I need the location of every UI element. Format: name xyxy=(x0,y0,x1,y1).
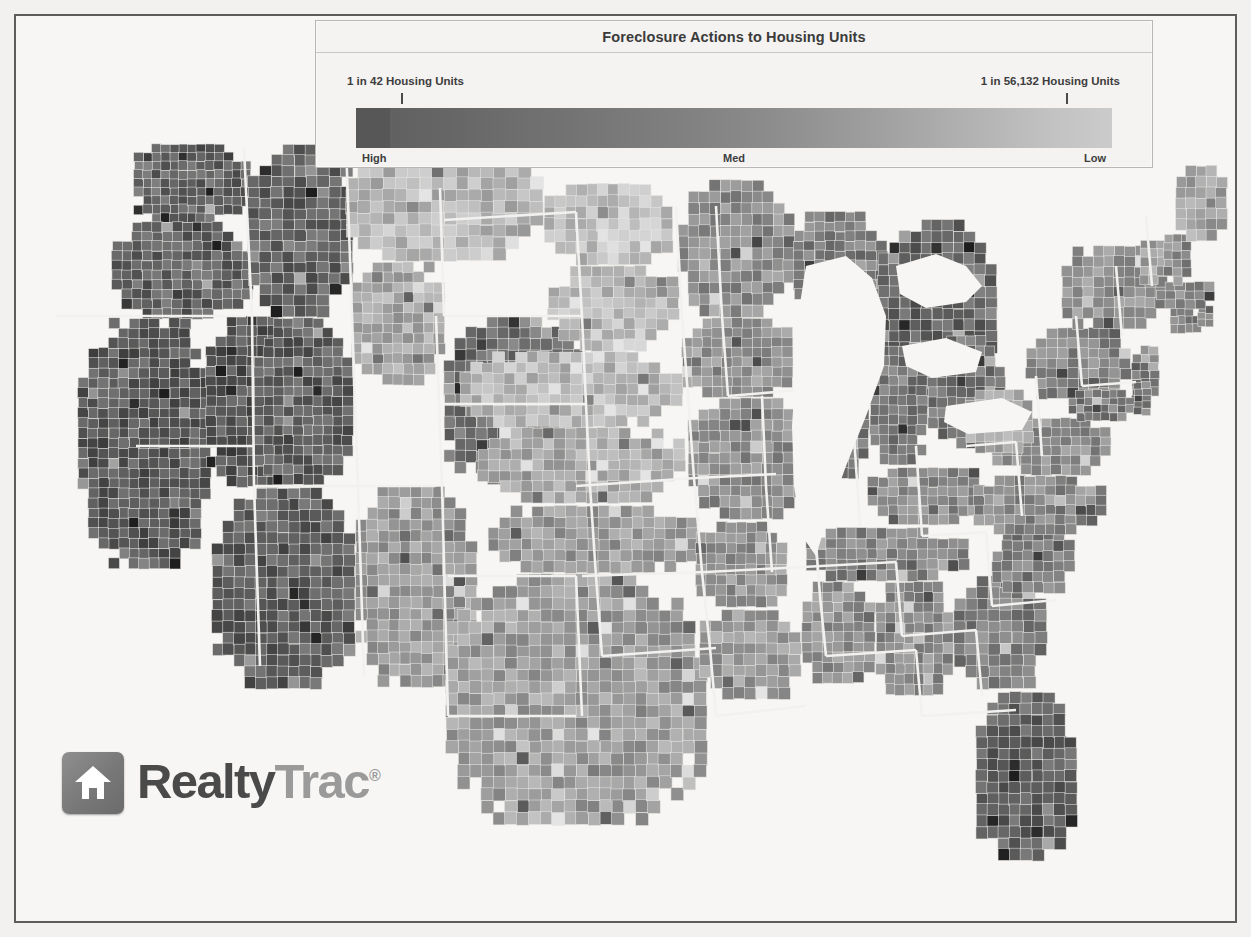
county-cell xyxy=(987,804,999,816)
county-cell xyxy=(1124,307,1135,318)
realtytrac-logo[interactable]: RealtyTrac® xyxy=(62,752,381,814)
county-cell xyxy=(904,612,914,623)
county-cell xyxy=(179,348,190,359)
county-cell xyxy=(695,741,708,754)
county-cell xyxy=(1057,388,1068,399)
county-cell xyxy=(623,318,635,329)
county-cell xyxy=(898,477,909,487)
county-cell xyxy=(772,398,783,410)
county-cell xyxy=(552,789,565,802)
county-cell xyxy=(709,485,720,497)
county-cell xyxy=(1109,404,1118,412)
county-cell xyxy=(288,566,300,578)
county-cell xyxy=(482,753,495,766)
county-cell xyxy=(328,198,340,210)
county-cell xyxy=(879,405,889,416)
county-cell xyxy=(577,184,589,196)
county-cell xyxy=(529,621,542,634)
county-cell xyxy=(647,610,660,623)
county-cell xyxy=(1046,377,1057,388)
county-cell xyxy=(917,375,927,386)
county-cell xyxy=(1051,464,1062,474)
county-cell xyxy=(846,549,857,560)
county-cell xyxy=(711,632,723,644)
county-cell xyxy=(1088,327,1099,338)
county-cell xyxy=(571,363,583,374)
county-cell xyxy=(170,548,181,559)
legend-body: 1 in 42 Housing Units 1 in 56,132 Housin… xyxy=(316,53,1152,168)
county-cell xyxy=(688,270,699,282)
county-cell xyxy=(477,470,489,481)
county-cell xyxy=(702,367,713,378)
county-cell xyxy=(608,492,620,503)
county-cell xyxy=(517,201,530,214)
county-cell xyxy=(432,564,444,576)
county-cell xyxy=(508,317,520,329)
county-cell xyxy=(611,657,624,670)
county-cell xyxy=(1061,446,1072,456)
county-cell xyxy=(383,177,396,190)
county-cell xyxy=(226,416,237,427)
county-cell xyxy=(190,488,201,499)
county-cell xyxy=(123,241,134,252)
county-cell xyxy=(552,764,565,777)
county-cell xyxy=(142,250,153,261)
county-cell xyxy=(715,595,726,606)
county-cell xyxy=(388,630,400,642)
county-cell xyxy=(608,219,620,231)
county-cell xyxy=(662,449,674,460)
county-cell xyxy=(889,414,899,425)
county-cell xyxy=(306,295,318,307)
county-cell xyxy=(814,211,825,222)
county-cell xyxy=(79,468,90,479)
county-cell xyxy=(789,643,801,655)
county-cell xyxy=(293,405,304,416)
county-cell xyxy=(152,280,163,291)
county-cell xyxy=(407,224,420,237)
county-cell xyxy=(772,337,783,348)
county-cell xyxy=(271,294,283,306)
county-cell xyxy=(611,753,624,766)
county-cell xyxy=(329,187,341,199)
county-cell xyxy=(608,241,620,253)
county-cell xyxy=(310,644,322,656)
county-cell xyxy=(277,577,289,589)
county-cell xyxy=(148,538,159,549)
county-cell xyxy=(722,665,734,677)
county-cell xyxy=(541,765,554,778)
county-cell xyxy=(433,652,445,664)
county-cell xyxy=(832,672,843,683)
county-cell xyxy=(741,225,752,237)
county-cell xyxy=(558,329,570,340)
county-cell xyxy=(904,592,914,603)
county-cell xyxy=(1093,246,1104,257)
county-cell xyxy=(576,728,589,741)
county-cell xyxy=(482,693,495,706)
county-cell xyxy=(778,622,790,634)
county-cell xyxy=(303,474,314,485)
county-cell xyxy=(421,509,433,521)
county-cell xyxy=(182,241,193,252)
county-cell xyxy=(444,236,457,249)
county-cell xyxy=(624,801,637,814)
county-cell xyxy=(139,488,150,499)
county-cell xyxy=(343,386,354,397)
county-cell xyxy=(118,438,129,449)
county-cell xyxy=(843,602,854,613)
county-cell xyxy=(752,248,763,260)
county-cell xyxy=(681,347,692,358)
county-cell xyxy=(504,729,517,742)
county-cell xyxy=(1216,218,1227,229)
county-cell xyxy=(762,214,773,226)
county-cell xyxy=(650,218,662,230)
county-cell xyxy=(1206,165,1217,176)
county-cell xyxy=(623,740,636,753)
county-cell xyxy=(404,364,415,375)
county-cell xyxy=(868,496,879,506)
county-cell xyxy=(612,812,625,825)
county-cell xyxy=(283,187,295,199)
county-cell xyxy=(367,619,379,631)
county-cell xyxy=(160,378,171,389)
county-cell xyxy=(179,498,190,509)
county-cell xyxy=(688,214,699,226)
